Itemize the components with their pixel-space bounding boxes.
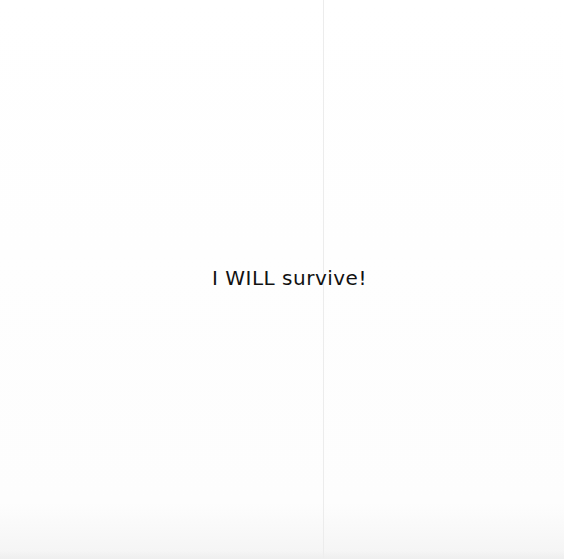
greeting-card: I WILL survive!: [0, 0, 564, 559]
card-message: I WILL survive!: [212, 266, 367, 290]
card-bottom-edge: [0, 551, 564, 559]
